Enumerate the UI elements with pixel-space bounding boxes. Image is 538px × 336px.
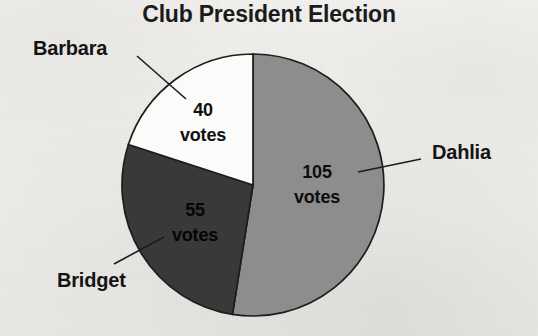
- slice-value-barbara-unit: votes: [180, 125, 226, 145]
- pie-label-barbara: Barbara: [33, 37, 108, 59]
- slice-value-dahlia-unit: votes: [294, 187, 340, 207]
- slice-value-barbara-number: 40: [193, 100, 213, 120]
- pie-slice-dahlia[interactable]: [233, 54, 384, 316]
- slice-value-dahlia-number: 105: [302, 162, 332, 182]
- slice-value-bridget-unit: votes: [172, 225, 218, 245]
- pie-chart-figure: Club President Election 40 votes 105 vot…: [0, 0, 538, 336]
- chart-title: Club President Election: [142, 1, 396, 27]
- slice-value-bridget-number: 55: [185, 200, 205, 220]
- pie-label-bridget: Bridget: [57, 269, 126, 291]
- pie-label-dahlia: Dahlia: [432, 141, 492, 163]
